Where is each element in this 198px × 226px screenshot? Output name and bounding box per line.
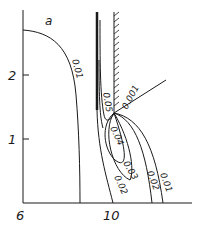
x-tick-label-6: 6 <box>16 208 24 223</box>
contour-0.02-left <box>97 110 113 203</box>
wall-hatching <box>114 12 119 106</box>
panel-label: a <box>45 14 52 28</box>
contour-label-0.04: 0.04 <box>108 125 126 148</box>
y-tick-label-1: 1 <box>8 132 16 147</box>
contour-0.01-left <box>23 30 80 203</box>
contour-label-0.02-right: 0.02 <box>145 169 161 192</box>
contour-label-0.001: 0.001 <box>120 83 141 110</box>
y-tick-label-2: 2 <box>8 68 16 83</box>
x-tick-label-10: 10 <box>103 208 120 223</box>
contour-chart: 2 1 6 10 a 0.01 0.001 0.05 0.04 0.03 <box>0 0 198 226</box>
contour-label-0.01-left: 0.01 <box>70 58 85 80</box>
contour-label-0.02-left: 0.02 <box>112 174 130 197</box>
